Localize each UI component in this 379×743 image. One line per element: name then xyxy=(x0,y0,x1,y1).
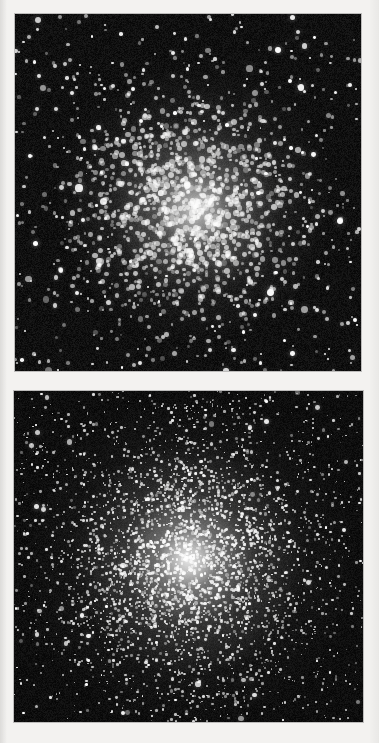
figure-page xyxy=(0,0,379,743)
cluster-image-bottom xyxy=(14,391,363,722)
starfield-bottom xyxy=(14,391,363,722)
cluster-image-top xyxy=(15,14,361,371)
starfield-top xyxy=(15,14,361,371)
